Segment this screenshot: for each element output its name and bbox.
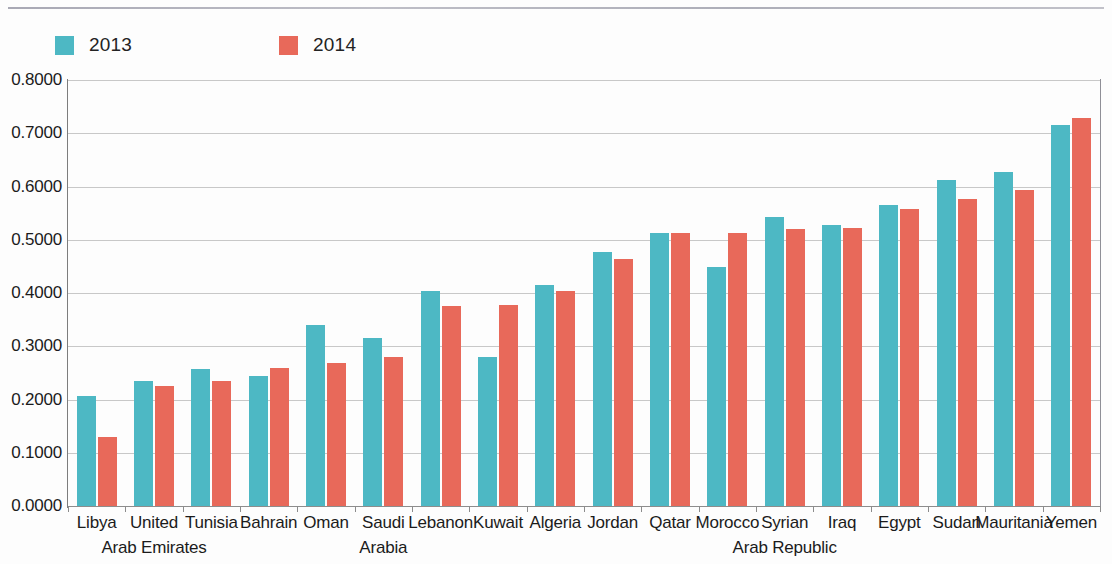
x-tick-label: Qatar bbox=[649, 510, 691, 535]
bar-2014[interactable] bbox=[1015, 190, 1034, 506]
bar-2014[interactable] bbox=[98, 437, 117, 506]
bar-2014[interactable] bbox=[614, 259, 633, 506]
plot-right-border bbox=[1100, 79, 1101, 508]
bar-2014[interactable] bbox=[384, 357, 403, 506]
x-tick-label-line1: Egypt bbox=[878, 513, 920, 532]
x-tick-mark bbox=[240, 506, 241, 512]
bar-2013[interactable] bbox=[306, 325, 325, 506]
bar-group bbox=[421, 80, 461, 506]
y-tick-label: 0.1000 bbox=[0, 443, 62, 463]
bar-2013[interactable] bbox=[593, 252, 612, 506]
y-tick-label: 0.8000 bbox=[0, 70, 62, 90]
x-tick-label-line1: Sudan bbox=[933, 513, 981, 532]
bar-2013[interactable] bbox=[765, 217, 784, 506]
y-tick-label: 0.5000 bbox=[0, 230, 62, 250]
x-tick-label: Mauritania bbox=[975, 510, 1052, 535]
x-tick-label: Yemen bbox=[1046, 510, 1097, 535]
y-tick-label: 0.0000 bbox=[0, 496, 62, 516]
bar-2014[interactable] bbox=[728, 233, 747, 506]
bar-group bbox=[707, 80, 747, 506]
bar-group bbox=[765, 80, 805, 506]
bar-2014[interactable] bbox=[155, 386, 174, 506]
bar-2014[interactable] bbox=[958, 199, 977, 506]
x-tick-label-line1: United bbox=[130, 513, 178, 532]
bar-2014[interactable] bbox=[556, 291, 575, 506]
bars-container bbox=[68, 80, 1100, 506]
x-tick-label-line1: Jordan bbox=[587, 513, 638, 532]
bar-2014[interactable] bbox=[1072, 118, 1091, 506]
bar-group bbox=[650, 80, 690, 506]
bar-2013[interactable] bbox=[650, 233, 669, 506]
chart-page: 2013 2014 0.00000.10000.20000.30000.4000… bbox=[0, 0, 1112, 564]
bar-2014[interactable] bbox=[843, 228, 862, 506]
bar-group bbox=[191, 80, 231, 506]
x-tick-mark bbox=[928, 506, 929, 512]
bar-group bbox=[994, 80, 1034, 506]
bar-2013[interactable] bbox=[134, 381, 153, 506]
x-tick-label-line1: Bahrain bbox=[240, 513, 297, 532]
x-tick-label-line1: Qatar bbox=[649, 513, 691, 532]
bar-group bbox=[822, 80, 862, 506]
y-tick-label: 0.7000 bbox=[0, 123, 62, 143]
bar-2014[interactable] bbox=[270, 368, 289, 506]
x-tick-mark bbox=[125, 506, 126, 512]
bar-2014[interactable] bbox=[442, 306, 461, 506]
x-tick-mark bbox=[183, 506, 184, 512]
x-tick-mark bbox=[699, 506, 700, 512]
x-tick-label: Iraq bbox=[828, 510, 857, 535]
x-tick-label-line1: Algeria bbox=[530, 513, 582, 532]
bar-group bbox=[1051, 80, 1091, 506]
x-tick-mark bbox=[985, 506, 986, 512]
bar-2013[interactable] bbox=[879, 205, 898, 506]
x-tick-label-line1: Iraq bbox=[828, 513, 857, 532]
bar-2014[interactable] bbox=[327, 363, 346, 506]
x-tick-label-line1: Syrian bbox=[761, 513, 808, 532]
x-tick-mark bbox=[813, 506, 814, 512]
x-tick-mark bbox=[68, 506, 69, 512]
bar-group bbox=[306, 80, 346, 506]
x-tick-label: Tunisia bbox=[185, 510, 238, 535]
bar-2013[interactable] bbox=[421, 291, 440, 506]
bar-2013[interactable] bbox=[937, 180, 956, 506]
bar-2013[interactable] bbox=[707, 267, 726, 506]
bar-group bbox=[879, 80, 919, 506]
bar-group bbox=[363, 80, 403, 506]
bar-group bbox=[77, 80, 117, 506]
bar-group bbox=[249, 80, 289, 506]
x-tick-label-line1: Tunisia bbox=[185, 513, 238, 532]
bar-2013[interactable] bbox=[77, 396, 96, 506]
bar-2013[interactable] bbox=[535, 285, 554, 506]
x-tick-label: Kuwait bbox=[473, 510, 523, 535]
x-tick-label-line2: Arab Emirates bbox=[101, 535, 206, 560]
x-tick-label-line1: Lebanon bbox=[408, 513, 473, 532]
plot-area: 0.00000.10000.20000.30000.40000.50000.60… bbox=[0, 0, 1112, 564]
x-tick-mark bbox=[527, 506, 528, 512]
x-tick-mark bbox=[1100, 506, 1101, 512]
x-tick-mark bbox=[871, 506, 872, 512]
bar-group bbox=[478, 80, 518, 506]
x-tick-label-line1: Kuwait bbox=[473, 513, 523, 532]
x-tick-mark bbox=[641, 506, 642, 512]
bar-2013[interactable] bbox=[478, 357, 497, 506]
x-tick-mark bbox=[584, 506, 585, 512]
x-tick-label-line1: Mauritania bbox=[975, 513, 1052, 532]
bar-2013[interactable] bbox=[363, 338, 382, 506]
bar-group bbox=[134, 80, 174, 506]
y-tick-label: 0.3000 bbox=[0, 336, 62, 356]
bar-2013[interactable] bbox=[1051, 125, 1070, 506]
bar-2013[interactable] bbox=[822, 225, 841, 506]
y-tick-label: 0.2000 bbox=[0, 390, 62, 410]
bar-2014[interactable] bbox=[212, 381, 231, 506]
x-tick-mark bbox=[756, 506, 757, 512]
bar-group bbox=[593, 80, 633, 506]
bar-2014[interactable] bbox=[499, 305, 518, 506]
x-tick-label: Lebanon bbox=[408, 510, 473, 535]
x-tick-label: Bahrain bbox=[240, 510, 297, 535]
bar-2013[interactable] bbox=[249, 376, 268, 506]
bar-2013[interactable] bbox=[994, 172, 1013, 506]
bar-2013[interactable] bbox=[191, 369, 210, 506]
x-tick-label: Jordan bbox=[587, 510, 638, 535]
bar-2014[interactable] bbox=[671, 233, 690, 506]
bar-2014[interactable] bbox=[900, 209, 919, 506]
bar-2014[interactable] bbox=[786, 229, 805, 506]
